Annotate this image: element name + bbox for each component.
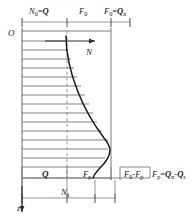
label-origin-O-text: O [8,28,15,38]
label-F0-text: F0 [79,6,87,16]
label-origin-O: O [8,29,15,38]
label-axis-N-text: N [86,47,92,57]
pile-axial-force-figure: N0=Q F0 F0=Qn O N Q Fp F0-Fp Fp=Qn-Qs N1… [0,0,194,219]
label-Fp-equals-Qn-minus-Qs: Fp=Qn-Qs [152,170,186,179]
z-axis-arrow [20,186,25,212]
label-N0-equals-Q-text: N0=Q [29,6,49,16]
hatch-lines [22,41,108,167]
label-N1-text: N1 [61,187,70,197]
label-axis-N: N [86,48,92,57]
figure-canvas [0,0,194,219]
label-axis-z-text: z [17,204,20,213]
label-F0-minus-Fp-text: F0-Fp [124,169,143,179]
axial-force-curve [66,36,110,178]
label-Fp-equals-Qn-minus-Qs-text: Fp=Qn-Qs [152,169,186,179]
label-F0-equals-Qn: F0=Qn [104,7,126,16]
n-axis-arrow [45,39,95,44]
label-F0-equals-Qn-text: F0=Qn [104,6,126,16]
label-Q-text: Q [42,169,49,179]
label-F0: F0 [79,7,87,16]
label-Fp: Fp [83,170,91,179]
label-F0-minus-Fp: F0-Fp [124,170,143,179]
label-N1: N1 [61,188,70,197]
label-Q: Q [42,170,49,179]
label-axis-z: z [17,205,20,213]
label-Fp-text: Fp [83,169,91,179]
top-dimension-line [22,18,130,27]
label-N0-equals-Q: N0=Q [29,7,49,16]
